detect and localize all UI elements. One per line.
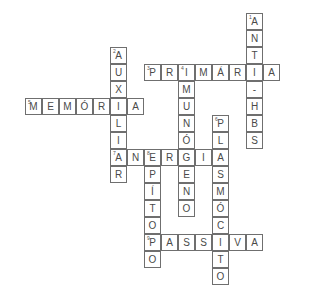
crossword-cell[interactable]: M bbox=[212, 183, 229, 200]
crossword-cell[interactable]: M bbox=[195, 64, 212, 81]
cell-letter: Ó bbox=[183, 136, 191, 146]
cell-letter: T bbox=[149, 204, 155, 214]
crossword-cell[interactable]: S bbox=[178, 234, 195, 251]
cell-letter: I bbox=[117, 136, 120, 146]
crossword-cell[interactable]: O bbox=[144, 251, 161, 268]
crossword-cell[interactable]: N bbox=[246, 30, 263, 47]
crossword-cell[interactable]: R bbox=[93, 98, 110, 115]
cell-letter: N bbox=[183, 119, 190, 129]
cell-letter: R bbox=[166, 153, 173, 163]
clue-number: 4 bbox=[181, 66, 184, 71]
cell-letter: N bbox=[251, 34, 258, 44]
clue-number: 8 bbox=[147, 151, 150, 156]
crossword-cell[interactable]: 5M bbox=[25, 98, 42, 115]
crossword-cell[interactable]: A bbox=[212, 149, 229, 166]
crossword-cell[interactable]: L bbox=[110, 115, 127, 132]
cell-letter: I bbox=[117, 102, 120, 112]
crossword-cell[interactable]: T bbox=[212, 251, 229, 268]
cell-letter: O bbox=[149, 255, 157, 265]
crossword-cell[interactable]: R bbox=[161, 149, 178, 166]
crossword-cell[interactable]: Ó bbox=[212, 200, 229, 217]
crossword-cell[interactable]: N bbox=[178, 115, 195, 132]
cell-letter: R bbox=[166, 68, 173, 78]
crossword-cell[interactable]: I bbox=[195, 149, 212, 166]
cell-letter: C bbox=[217, 221, 224, 231]
cell-letter: R bbox=[115, 170, 122, 180]
cell-letter: T bbox=[251, 51, 257, 61]
cell-letter: Ó bbox=[217, 204, 225, 214]
crossword-cell[interactable]: T bbox=[246, 47, 263, 64]
crossword-cell[interactable]: 4I bbox=[178, 64, 195, 81]
cell-letter: M bbox=[182, 85, 190, 95]
clue-number: 5 bbox=[28, 100, 31, 105]
crossword-cell[interactable]: - bbox=[246, 81, 263, 98]
cell-letter: A bbox=[115, 51, 122, 61]
cell-letter: P bbox=[217, 119, 224, 129]
crossword-cell[interactable]: S bbox=[246, 132, 263, 149]
cell-letter: V bbox=[234, 238, 241, 248]
crossword-cell[interactable]: N bbox=[127, 149, 144, 166]
cell-letter: N bbox=[132, 153, 139, 163]
crossword-cell[interactable]: I bbox=[212, 234, 229, 251]
crossword-cell[interactable]: R bbox=[110, 166, 127, 183]
crossword-cell[interactable]: 1A bbox=[246, 13, 263, 30]
clue-number: 1 bbox=[249, 15, 252, 20]
crossword-cell[interactable]: Í bbox=[144, 183, 161, 200]
cell-letter: O bbox=[149, 221, 157, 231]
crossword-cell[interactable]: A bbox=[161, 234, 178, 251]
crossword-cell[interactable]: Ó bbox=[178, 132, 195, 149]
cell-letter: S bbox=[200, 238, 207, 248]
crossword-cell[interactable]: U bbox=[178, 98, 195, 115]
crossword-cell[interactable]: O bbox=[212, 268, 229, 285]
crossword-cell[interactable]: I bbox=[246, 64, 263, 81]
crossword-cell[interactable]: C bbox=[212, 217, 229, 234]
crossword-cell[interactable]: L bbox=[212, 132, 229, 149]
crossword-cell[interactable]: S bbox=[212, 166, 229, 183]
crossword-cell[interactable]: A bbox=[246, 234, 263, 251]
crossword-cell[interactable]: O bbox=[178, 200, 195, 217]
crossword-cell[interactable]: R bbox=[229, 64, 246, 81]
cell-letter: Í bbox=[151, 187, 154, 197]
crossword-cell[interactable]: Á bbox=[212, 64, 229, 81]
cell-letter: S bbox=[183, 238, 190, 248]
crossword-cell[interactable]: 9P bbox=[144, 234, 161, 251]
crossword-cell[interactable]: E bbox=[178, 166, 195, 183]
crossword-cell[interactable]: I bbox=[110, 98, 127, 115]
crossword-cell[interactable]: 8E bbox=[144, 149, 161, 166]
cell-letter: O bbox=[217, 272, 225, 282]
cell-letter: N bbox=[183, 187, 190, 197]
crossword-cell[interactable]: A bbox=[263, 64, 280, 81]
cell-letter: A bbox=[166, 238, 173, 248]
crossword-cell[interactable]: T bbox=[144, 200, 161, 217]
crossword-cell[interactable]: U bbox=[110, 64, 127, 81]
cell-letter: G bbox=[183, 153, 191, 163]
crossword-cell[interactable]: A bbox=[127, 98, 144, 115]
crossword-cell[interactable]: P bbox=[144, 166, 161, 183]
crossword-cell[interactable]: Ó bbox=[76, 98, 93, 115]
crossword-cell[interactable]: M bbox=[178, 81, 195, 98]
cell-letter: M bbox=[216, 187, 224, 197]
crossword-cell[interactable]: M bbox=[59, 98, 76, 115]
crossword-cell[interactable]: H bbox=[246, 98, 263, 115]
crossword-cell[interactable]: O bbox=[144, 217, 161, 234]
crossword-cell[interactable]: S bbox=[195, 234, 212, 251]
crossword-cell[interactable]: 7A bbox=[110, 149, 127, 166]
crossword-cell[interactable]: G bbox=[178, 149, 195, 166]
cell-letter: I bbox=[253, 68, 256, 78]
crossword-cell[interactable]: I bbox=[110, 132, 127, 149]
crossword-cell[interactable]: R bbox=[161, 64, 178, 81]
crossword-cell[interactable]: 6P bbox=[212, 115, 229, 132]
cell-letter: T bbox=[217, 255, 223, 265]
cell-letter: A bbox=[115, 153, 122, 163]
crossword-cell[interactable]: N bbox=[178, 183, 195, 200]
crossword-cell[interactable]: V bbox=[229, 234, 246, 251]
crossword-cell[interactable]: E bbox=[42, 98, 59, 115]
crossword-cell[interactable]: B bbox=[246, 115, 263, 132]
clue-number: 7 bbox=[113, 151, 116, 156]
crossword-cell[interactable]: 2A bbox=[110, 47, 127, 64]
cell-letter: - bbox=[253, 85, 256, 95]
crossword-cell[interactable]: 3P bbox=[144, 64, 161, 81]
cell-letter: A bbox=[251, 238, 258, 248]
crossword-cell[interactable]: X bbox=[110, 81, 127, 98]
cell-letter: R bbox=[234, 68, 241, 78]
